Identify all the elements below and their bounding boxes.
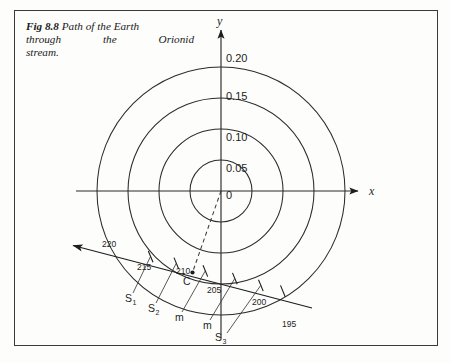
y-tick-label-group: 0.05 0.10 0.15 0.20 0 xyxy=(226,52,247,201)
point-c-label: C xyxy=(183,275,191,287)
point-c-marker xyxy=(190,270,194,274)
y-tick-label-0.20: 0.20 xyxy=(226,52,247,64)
orionid-stream-diagram: x y 0.05 0.10 0.15 0.20 0 220 xyxy=(0,0,451,363)
segment-label-s3-sub: 3 xyxy=(223,338,227,345)
radial-dashed-line xyxy=(193,191,222,273)
segment-label-s2-base: S xyxy=(148,302,155,314)
segment-label-s3-base: S xyxy=(215,331,222,343)
x-axis-label: x xyxy=(368,184,375,198)
longitude-label-200: 200 xyxy=(252,297,266,307)
segment-label-s1-sub: 1 xyxy=(133,299,137,306)
y-tick-label-0.05: 0.05 xyxy=(226,162,247,174)
figure-page: Fig 8.8 Path of the Earth through the Or… xyxy=(0,0,451,363)
segment-label-s1: S 1 xyxy=(125,292,137,306)
segment-label-s3: S 3 xyxy=(215,331,227,345)
origin-label: 0 xyxy=(226,189,232,201)
y-axis-label: y xyxy=(216,14,223,28)
y-tick-label-0.10: 0.10 xyxy=(226,131,247,143)
segment-label-s2-sub: 2 xyxy=(156,309,160,316)
y-tick-label-0.15: 0.15 xyxy=(226,90,247,102)
path-tick-195 xyxy=(281,285,286,296)
leader-s3 xyxy=(227,285,261,333)
longitude-label-220: 220 xyxy=(102,239,116,249)
longitude-label-205: 205 xyxy=(207,285,221,295)
segment-label-group: S 1 S 2 m m S 3 xyxy=(125,292,227,345)
segment-label-s1-base: S xyxy=(125,292,132,304)
longitude-label-195: 195 xyxy=(282,319,296,329)
segment-label-m1: m xyxy=(175,311,184,323)
earth-path-line xyxy=(73,246,312,309)
segment-label-m2: m xyxy=(203,319,212,331)
segment-label-s2: S 2 xyxy=(148,302,160,316)
leader-s2 xyxy=(156,263,176,303)
